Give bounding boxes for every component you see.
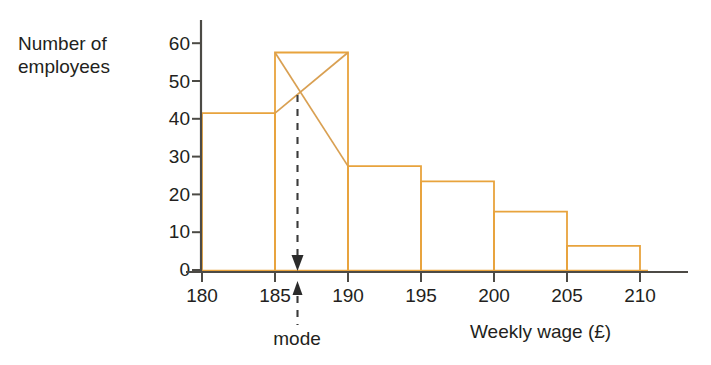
bar-195-200: [421, 181, 494, 272]
x-axis-ticks: [202, 272, 640, 282]
bar-205-210: [567, 246, 640, 272]
bar-180-185: [202, 113, 275, 272]
bar-190-195: [348, 166, 421, 272]
histogram-bars: [202, 53, 640, 273]
mode-arrowhead-up: [293, 281, 303, 295]
mode-line-b: [275, 53, 348, 114]
bar-185-190: [275, 53, 348, 273]
mode-arrowhead-down: [292, 255, 304, 271]
mode-construction-lines: [275, 53, 348, 167]
mode-dashed-drop: [292, 95, 304, 271]
bar-200-205: [494, 212, 567, 272]
histogram-figure: Number of employees Weekly wage (£) mode…: [0, 0, 711, 365]
mode-line-a: [275, 53, 348, 167]
mode-pointer-below-axis: [293, 281, 303, 325]
plot-area: [0, 0, 711, 365]
y-axis-ticks: [192, 43, 201, 270]
